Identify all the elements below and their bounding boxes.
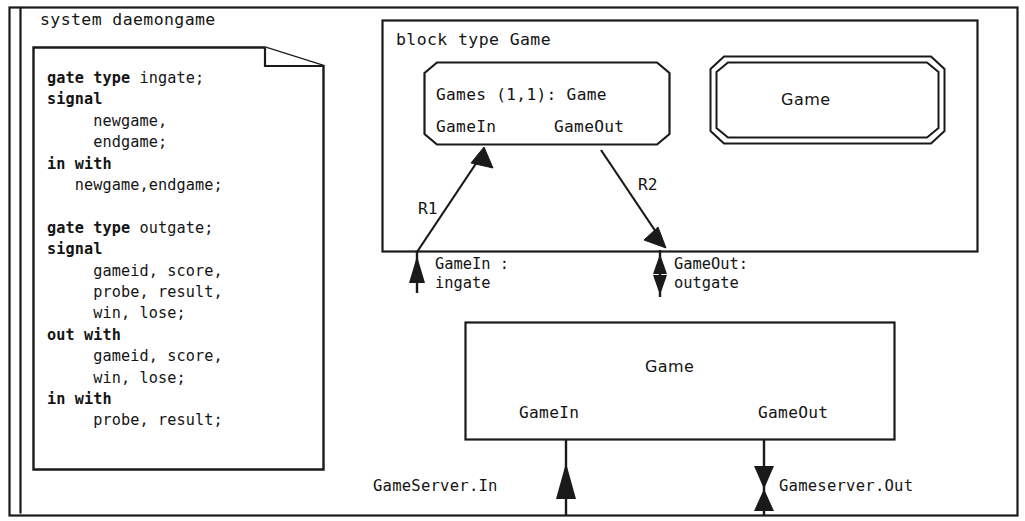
code-text: outgate; xyxy=(130,219,213,237)
games-instance-header: Games (1,1): Game xyxy=(436,86,607,104)
code-line: newgame,endgame; xyxy=(47,175,315,196)
code-line: probe, result, xyxy=(47,282,315,303)
code-line: win, lose; xyxy=(47,368,315,389)
code-line: out with xyxy=(47,325,315,346)
game-server-gate-in: GameIn xyxy=(519,404,579,422)
channel-in-label: GameServer.In xyxy=(373,478,498,495)
code-keyword: out with xyxy=(47,326,121,344)
relation-r1-label: R1 xyxy=(418,200,438,218)
code-text: win, lose; xyxy=(47,304,186,322)
relation-r2-arrowhead xyxy=(644,227,666,248)
channel-out-bidirectional-arrow-icon xyxy=(754,466,774,511)
code-text: gameid, score, xyxy=(47,347,223,365)
games-instance-gate-out: GameOut xyxy=(554,118,624,136)
code-text: gameid, score, xyxy=(47,262,223,280)
code-keyword: gate type xyxy=(47,219,130,237)
code-line: probe, result; xyxy=(47,410,315,431)
code-keyword: signal xyxy=(47,90,102,108)
system-title: system daemongame xyxy=(40,11,216,29)
code-keyword: gate type xyxy=(47,69,130,87)
game-server-title: Game xyxy=(645,358,694,376)
code-line: gate type ingate; xyxy=(47,68,315,89)
code-line: signal xyxy=(47,239,315,260)
block-type-title: block type Game xyxy=(396,31,551,49)
code-text: probe, result, xyxy=(47,283,223,301)
code-text: win, lose; xyxy=(47,369,186,387)
gate-out-arrow-down-icon xyxy=(653,275,667,295)
diagram-canvas: system daemongame gate type ingate;signa… xyxy=(0,0,1025,521)
gate-in-label: GameIn : ingate xyxy=(435,255,509,292)
code-line: signal xyxy=(47,89,315,110)
code-line: gate type outgate; xyxy=(47,218,315,239)
code-text: newgame,endgame; xyxy=(47,176,223,194)
code-line: gameid, score, xyxy=(47,346,315,367)
gate-in-arrow-up-icon xyxy=(409,256,425,283)
system-document-code: gate type ingate;signal newgame, endgame… xyxy=(47,68,315,432)
code-line: win, lose; xyxy=(47,303,315,324)
channel-out-label: Gameserver.Out xyxy=(779,478,913,495)
code-text: endgame; xyxy=(47,133,167,151)
code-keyword: signal xyxy=(47,240,102,258)
code-line: gameid, score, xyxy=(47,261,315,282)
game-type-label: Game xyxy=(781,91,831,109)
code-text: newgame, xyxy=(47,112,167,130)
gate-out-arrow-up-icon xyxy=(653,254,667,274)
channel-in-arrow-up-icon xyxy=(556,463,576,499)
relation-r2-label: R2 xyxy=(638,176,658,194)
code-keyword: in with xyxy=(47,155,112,173)
code-line: in with xyxy=(47,154,315,175)
game-server-gate-out: GameOut xyxy=(758,404,828,422)
games-instance-gate-in: GameIn xyxy=(436,118,496,136)
code-line: newgame, xyxy=(47,111,315,132)
code-keyword: in with xyxy=(47,390,112,408)
code-text: ingate; xyxy=(130,69,204,87)
code-line: in with xyxy=(47,389,315,410)
code-blank-line xyxy=(47,196,315,217)
gate-out-label: GameOut: outgate xyxy=(674,255,748,292)
code-text: probe, result; xyxy=(47,411,223,429)
code-line: endgame; xyxy=(47,132,315,153)
